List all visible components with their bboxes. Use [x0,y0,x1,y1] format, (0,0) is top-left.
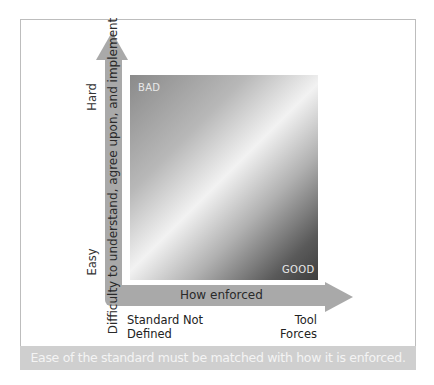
good-label: GOOD [282,264,314,275]
y-high-label: Hard [85,83,99,111]
y-low-label: Easy [85,248,99,275]
arrow-right-icon [325,282,353,312]
x-low-label: Standard Not Defined [127,313,227,341]
y-axis-label: Difficulty to understand, agree upon, an… [106,18,120,335]
bad-label: BAD [138,82,160,93]
caption: Ease of the standard must be matched wit… [20,346,416,370]
gradient-quadrant [130,75,318,280]
x-axis-label: How enforced [180,287,320,304]
x-high-label: Tool Forces [277,313,317,341]
